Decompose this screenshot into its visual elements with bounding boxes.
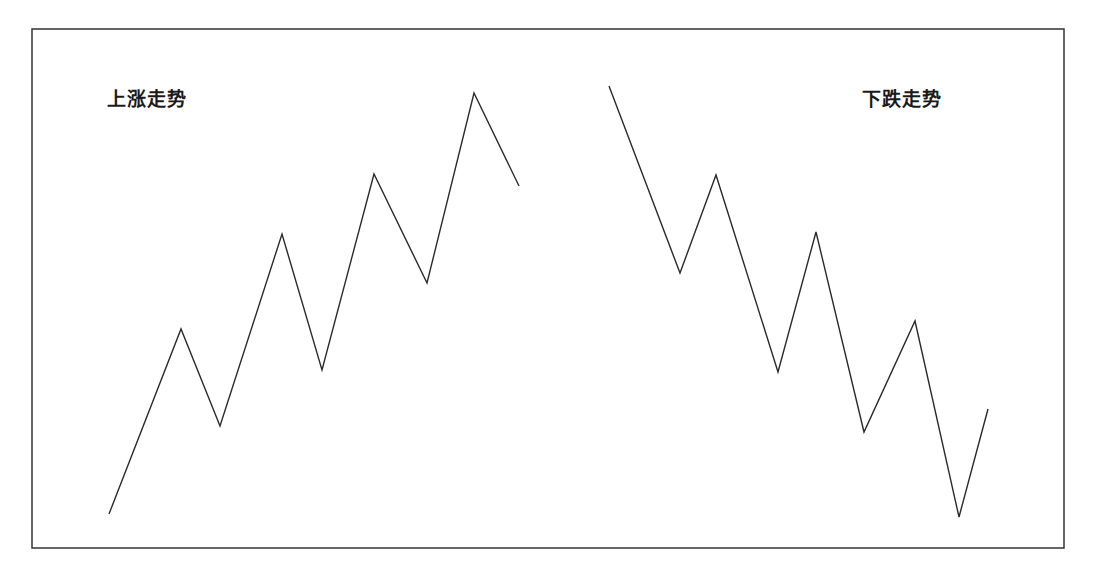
trend-chart: [0, 0, 1094, 578]
uptrend-line: [109, 93, 519, 514]
uptrend-label: 上涨走势: [107, 90, 187, 109]
downtrend-label: 下跌走势: [862, 90, 942, 109]
downtrend-line: [609, 86, 988, 517]
